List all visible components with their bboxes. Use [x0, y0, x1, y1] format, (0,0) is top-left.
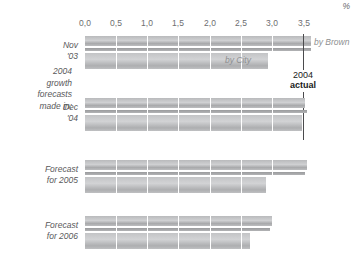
- x-tick-3: 1,5: [172, 18, 184, 28]
- bar-f2005-city: [85, 177, 266, 193]
- series-label-by-brown: by Brown: [314, 37, 349, 47]
- chart-root: % 0,0 0,5 1,0 1,5 2,0 2,5 3,0 3,5 2004 g…: [0, 0, 356, 262]
- x-tick-5: 2,5: [235, 18, 247, 28]
- bar-dec04-thin: [85, 110, 307, 113]
- bar-nov03-brown: [85, 36, 311, 46]
- percent-axis-label: %: [342, 1, 350, 11]
- bar-f2006-brown: [85, 216, 272, 226]
- bar-f2005-thin: [85, 172, 305, 175]
- row-label-nov-03: Nov '03: [0, 40, 78, 61]
- bar-f2006-thin: [85, 228, 270, 231]
- actual-reference-caption: 2004 actual: [268, 70, 338, 90]
- series-label-by-city: by City: [225, 55, 251, 65]
- bar-nov03-thin: [85, 48, 311, 51]
- x-tick-7: 3,5: [298, 18, 310, 28]
- row-label-forecast-2005: Forecast for 2005: [0, 164, 78, 185]
- bar-f2006-city: [85, 233, 250, 249]
- x-axis-tick-labels: 0,0 0,5 1,0 1,5 2,0 2,5 3,0 3,5: [0, 18, 356, 30]
- row-label-dec-04: Dec '04: [0, 102, 78, 123]
- bar-dec04-city: [85, 115, 302, 131]
- actual-reference-year: 2004: [268, 70, 338, 80]
- bar-group-forecast-2006: Forecast for 2006: [0, 214, 356, 258]
- actual-reference-word: actual: [268, 80, 338, 90]
- bar-group-forecast-2005: Forecast for 2005: [0, 158, 356, 202]
- bar-group-dec-04: Dec '04: [0, 96, 356, 140]
- x-tick-1: 0,5: [110, 18, 122, 28]
- bar-dec04-brown: [85, 98, 305, 108]
- row-label-forecast-2006: Forecast for 2006: [0, 220, 78, 241]
- bar-f2005-brown: [85, 160, 307, 170]
- actual-reference-line-top: [303, 34, 304, 70]
- x-tick-6: 3,0: [266, 18, 278, 28]
- x-tick-2: 1,0: [141, 18, 153, 28]
- x-tick-0: 0,0: [79, 18, 91, 28]
- x-tick-4: 2,0: [204, 18, 216, 28]
